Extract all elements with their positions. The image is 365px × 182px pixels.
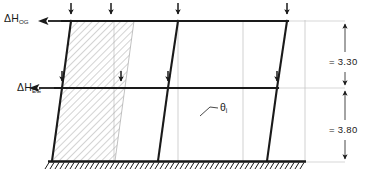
column-2-upper bbox=[168, 21, 178, 88]
column-3-upper bbox=[277, 21, 287, 88]
structural-frame-figure: ΔHOG ΔHEG θi = 3.30 = 3.80 bbox=[0, 0, 365, 182]
ground-hatch-ticks bbox=[45, 163, 304, 170]
column-2-lower bbox=[158, 88, 168, 161]
frame-drawing bbox=[0, 0, 365, 182]
column-3-lower bbox=[267, 88, 277, 161]
theta-leader-path bbox=[200, 107, 218, 116]
theta-leader bbox=[200, 107, 218, 116]
storey-level-lines bbox=[243, 21, 345, 162]
top-beam-load-arrows bbox=[71, 3, 287, 14]
hatched-deformation-panel bbox=[52, 21, 134, 161]
ground-support bbox=[45, 162, 306, 170]
